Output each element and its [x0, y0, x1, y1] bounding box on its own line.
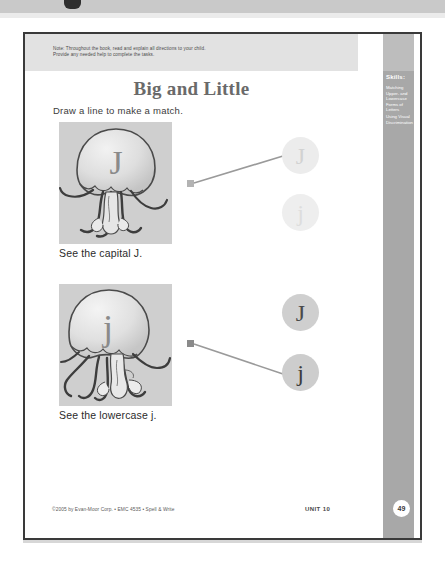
skills-item: Using Visual Discrimination — [383, 114, 414, 125]
jellyfish-capital-j-illustration: J — [59, 122, 172, 244]
page-bottom-edge — [23, 540, 422, 543]
answer-choice[interactable]: j — [282, 354, 319, 391]
connector-node[interactable] — [187, 180, 194, 187]
connector-node[interactable] — [187, 340, 194, 347]
chrome-notch — [64, 0, 81, 9]
footer-unit: UNIT 10 — [305, 506, 330, 512]
chrome-shadow — [0, 13, 445, 18]
art-letter: j — [101, 308, 113, 348]
skills-sidebar-top — [383, 34, 414, 71]
answer-choice[interactable]: j — [282, 194, 319, 231]
page-title: Big and Little — [25, 78, 358, 100]
worksheet-page: Note: Throughout the book, read and expl… — [23, 32, 422, 540]
page-number-badge: 49 — [393, 500, 410, 517]
skills-heading: Skills: — [383, 74, 414, 80]
answer-choice-label: J — [296, 301, 305, 325]
footer-copyright: ©2005 by Evan-Moor Corp. • EMC 4535 • Sp… — [52, 507, 175, 512]
app-chrome-bar — [0, 0, 445, 14]
parent-note: Note: Throughout the book, read and expl… — [53, 46, 333, 59]
jellyfish-lowercase-j-illustration: j — [59, 284, 172, 406]
answer-choice[interactable]: J — [282, 137, 319, 174]
art-letter: J — [109, 144, 122, 181]
skills-item: Matching Upper- and Lowercase Forms of L… — [383, 85, 414, 113]
answer-choice[interactable]: J — [282, 294, 319, 331]
problem-caption: See the lowercase j. — [59, 409, 157, 421]
answer-choice-label: j — [297, 201, 304, 225]
answer-choice-label: J — [296, 144, 305, 168]
answer-choice-label: j — [297, 361, 304, 385]
problem-caption: See the capital J. — [59, 247, 142, 259]
instruction-text: Draw a line to make a match. — [53, 105, 183, 116]
